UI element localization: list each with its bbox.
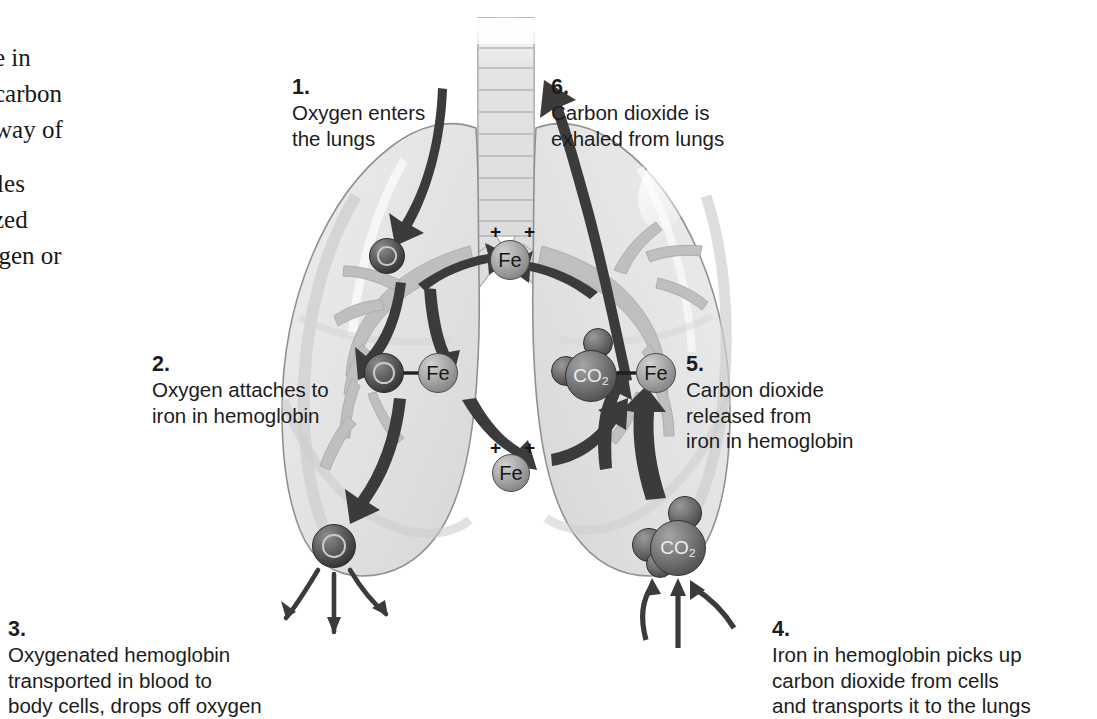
co2-label: CO2 [573,365,609,387]
step-number: 6. [551,75,569,99]
body-fragment-line: way of [0,112,63,148]
molecule-iron-bound-left: Fe [418,353,458,393]
step-text: Oxygenated hemoglobin transported in blo… [8,642,262,719]
molecule-iron-middle: Fe [492,454,530,492]
molecule-oxygen-upper [369,238,405,274]
molecule-co2-lower-group: CO2 [630,496,742,588]
molecule-iron-upper: Fe [490,240,530,280]
oxygen-ring [377,246,396,265]
step-text: Oxygen attaches to iron in hemoglobin [152,377,329,428]
body-fragment-line: e in [0,40,63,76]
step-text: Oxygen enters the lungs [292,100,425,151]
callout-step-1: 1. Oxygen enters the lungs [292,48,425,151]
step-number: 3. [8,617,26,641]
body-text-fragment-bottom: cles ized ygen or [0,166,62,274]
oxygen-ring [322,534,346,558]
step-number: 2. [152,352,170,376]
molecule-co2-bound: CO2 [565,350,617,402]
molecule-iron-middle-group: + + Fe [484,438,546,496]
step-number: 5. [686,352,704,376]
charge-plus-icon: + [490,438,501,457]
step-text: Carbon dioxide is exhaled from lungs [551,100,724,151]
co2-intake-arrows [643,586,734,648]
charge-plus-icon: + [490,222,501,241]
callout-step-6: 6. Carbon dioxide is exhaled from lungs [551,48,724,151]
callout-step-2: 2. Oxygen attaches to iron in hemoglobin [152,325,329,428]
charge-plus-icon: + [524,438,535,457]
step-number: 4. [772,617,790,641]
charge-plus-icon: + [524,222,535,241]
callout-step-3: 3. Oxygenated hemoglobin transported in … [8,590,262,719]
step-text: Carbon dioxide released from iron in hem… [686,377,854,454]
callout-step-5: 5. Carbon dioxide released from iron in … [686,325,854,454]
callout-step-4: 4. Iron in hemoglobin picks up carbon di… [772,590,1031,719]
body-fragment-line: cles [0,166,62,202]
body-fragment-line: carbon [0,76,63,112]
step-number: 1. [292,75,310,99]
body-text-fragment-top: e in carbon way of [0,40,63,148]
molecule-co2-lower: CO2 [650,520,706,576]
molecule-oxygen-bound [364,353,404,393]
co2-label: CO2 [660,537,696,559]
body-fragment-line: ygen or [0,238,62,274]
molecule-iron-upper-group: + + Fe [482,222,544,284]
molecule-oxygen-lower [312,524,356,568]
body-fragment-line: ized [0,202,62,238]
step-text: Iron in hemoglobin picks up carbon dioxi… [772,642,1031,719]
oxygen-ring [373,362,394,383]
molecule-iron-bound-right: Fe [636,353,676,393]
